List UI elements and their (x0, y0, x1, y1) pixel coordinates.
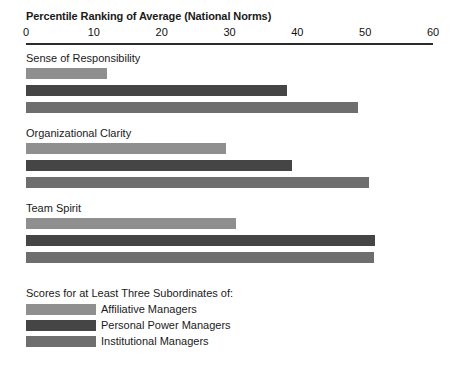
legend-item: Personal Power Managers (0, 319, 462, 332)
bar (26, 160, 292, 171)
x-axis-rule (26, 43, 433, 45)
bar (26, 143, 226, 154)
x-tick-10: 10 (88, 26, 100, 38)
legend-item: Affiliative Managers (0, 303, 462, 316)
bar (26, 252, 374, 263)
bar-track (0, 102, 462, 113)
legend-label: Affiliative Managers (101, 303, 197, 315)
bar (26, 177, 369, 188)
legend-label: Institutional Managers (101, 335, 209, 347)
x-tick-40: 40 (291, 26, 303, 38)
x-axis-tick-labels: 0102030405060 (0, 26, 462, 41)
x-tick-30: 30 (223, 26, 235, 38)
legend-swatch (26, 304, 96, 315)
bar-track (0, 85, 462, 96)
bar-track (0, 143, 462, 154)
bar-group-bars (0, 68, 462, 119)
bar (26, 85, 287, 96)
percentile-ranking-bar-chart: Percentile Ranking of Average (National … (0, 0, 462, 371)
legend-items: Affiliative ManagersPersonal Power Manag… (0, 303, 462, 351)
legend-swatch (26, 320, 96, 331)
x-tick-0: 0 (23, 26, 29, 38)
x-tick-20: 20 (156, 26, 168, 38)
bar-group-label: Sense of Responsibility (26, 52, 140, 64)
bar (26, 235, 375, 246)
bar-group-label: Team Spirit (26, 202, 81, 214)
legend-item: Institutional Managers (0, 335, 462, 348)
bar-group-bars (0, 143, 462, 194)
legend-label: Personal Power Managers (101, 319, 231, 331)
legend-swatch (26, 336, 96, 347)
bar-track (0, 160, 462, 171)
bar (26, 102, 358, 113)
bar-track (0, 68, 462, 79)
bar-track (0, 252, 462, 263)
x-tick-60: 60 (427, 26, 439, 38)
chart-title: Percentile Ranking of Average (National … (26, 10, 271, 22)
bar-group-bars (0, 218, 462, 269)
x-tick-50: 50 (359, 26, 371, 38)
bar (26, 68, 107, 79)
bar (26, 218, 236, 229)
legend-title: Scores for at Least Three Subordinates o… (26, 287, 233, 299)
bar-track (0, 235, 462, 246)
bar-track (0, 177, 462, 188)
bar-group-label: Organizational Clarity (26, 127, 131, 139)
bar-track (0, 218, 462, 229)
